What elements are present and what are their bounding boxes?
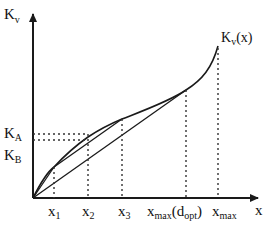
vertical-guides xyxy=(54,48,218,198)
horizontal-guides xyxy=(33,134,88,140)
x1-label: x1 xyxy=(48,203,61,221)
ka-label: KA xyxy=(4,125,23,143)
x-axis-label: x xyxy=(255,202,263,218)
xmax-dopt-label: xmax(dopt) xyxy=(147,203,202,221)
curve-label: Kv(x) xyxy=(221,30,253,47)
tangent-line-dopt xyxy=(33,90,186,198)
diagram-canvas: Kv Kv(x) KA KB x1 x2 x3 xmax(dopt) xmax … xyxy=(0,0,271,228)
x3-label: x3 xyxy=(118,203,131,221)
chord-origin-x1 xyxy=(33,167,54,198)
x2-label: x2 xyxy=(82,203,95,221)
xmax-label: xmax xyxy=(212,203,237,221)
y-axis-label: Kv xyxy=(4,6,20,25)
kb-label: KB xyxy=(4,147,22,165)
kv-curve xyxy=(33,46,218,198)
